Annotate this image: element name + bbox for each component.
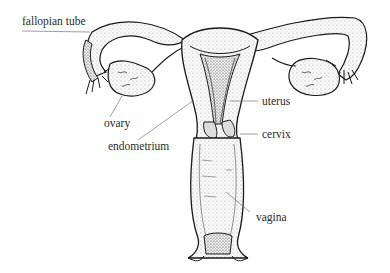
label-endometrium: endometrium <box>108 141 169 153</box>
diagram-canvas: fallopian tube ovary endometrium uterus … <box>0 0 390 273</box>
vagina <box>188 138 248 261</box>
label-cervix: cervix <box>262 129 291 141</box>
label-fallopian-tube: fallopian tube <box>22 16 86 28</box>
leader-fallopian-tube <box>22 31 90 32</box>
leader-endometrium <box>138 100 194 140</box>
left-ovary <box>108 46 186 96</box>
leader-ovary <box>110 96 122 117</box>
label-ovary: ovary <box>104 118 130 130</box>
uterus-body <box>182 28 258 140</box>
right-ovary <box>272 58 340 95</box>
reproductive-system-illustration <box>0 0 390 273</box>
label-vagina: vagina <box>256 212 287 224</box>
label-uterus: uterus <box>262 96 290 108</box>
